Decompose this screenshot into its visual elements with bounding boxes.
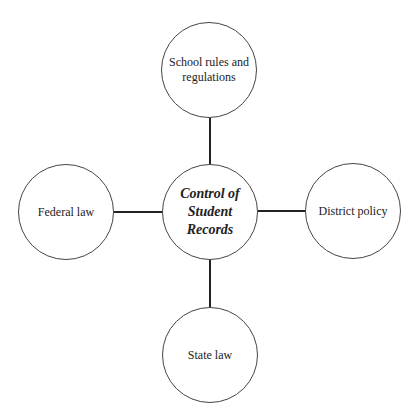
node-control-of-student-records: Control of Student Records	[162, 164, 258, 260]
node-label: State law	[182, 348, 238, 363]
node-state-law: State law	[162, 307, 258, 403]
node-federal-law: Federal law	[18, 164, 114, 260]
node-district-policy: District policy	[305, 163, 401, 259]
node-label: District policy	[313, 204, 394, 219]
node-label: Federal law	[32, 205, 100, 220]
center-label: Control of Student Records	[164, 185, 256, 239]
node-school-rules: School rules and regulations	[161, 22, 257, 118]
node-label: School rules and regulations	[163, 55, 255, 85]
